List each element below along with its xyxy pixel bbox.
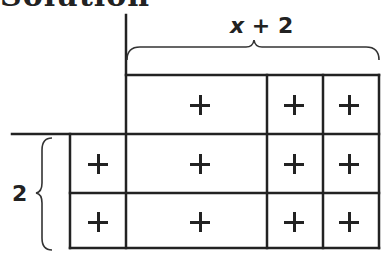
plus-icon	[190, 212, 210, 232]
left-brace	[36, 138, 52, 250]
plus-icon	[88, 154, 108, 174]
plus-icon	[190, 95, 210, 115]
plus-icon	[284, 212, 304, 232]
plus-icon	[339, 95, 359, 115]
top-dimension-label: x + 2	[230, 15, 293, 37]
plus-icon	[88, 212, 108, 232]
plus-icon	[284, 154, 304, 174]
plus-icon	[339, 154, 359, 174]
plus-icon	[190, 154, 210, 174]
plus-icon	[339, 212, 359, 232]
side-dimension-label: 2	[12, 183, 27, 205]
top-brace	[127, 40, 379, 60]
plus-icon	[284, 95, 304, 115]
